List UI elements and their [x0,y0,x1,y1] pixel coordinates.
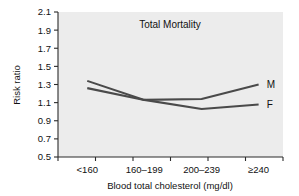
x-axis: <160160–199200–239≥240 [58,157,283,175]
x-tick-label: ≥240 [248,164,269,175]
series-label-m: M [267,79,275,90]
x-axis-tick-marks [58,157,283,161]
x-tick-label: <160 [77,164,98,175]
y-axis-tick-labels: 0.50.70.91.11.31.51.71.92.1 [38,6,51,162]
y-tick-label: 1.3 [38,79,51,90]
total-mortality-line-chart: 0.50.70.91.11.31.51.71.92.1 <160160–1992… [0,0,299,196]
x-tick-label: 160–199 [126,164,163,175]
y-tick-label: 0.9 [38,115,51,126]
y-tick-label: 1.7 [38,43,51,54]
y-tick-label: 2.1 [38,6,51,17]
y-tick-label: 1.1 [38,97,51,108]
y-axis-title: Risk ratio [11,65,22,105]
y-axis: 0.50.70.91.11.31.51.71.92.1 [38,6,58,162]
x-axis-title: Blood total cholesterol (mg/dl) [107,180,233,191]
y-tick-label: 0.7 [38,133,51,144]
chart-figure: 0.50.70.91.11.31.51.71.92.1 <160160–1992… [0,0,299,196]
x-tick-label: 200–239 [183,164,220,175]
chart-title: Total Mortality [139,19,201,30]
y-axis-tick-marks [54,12,58,157]
series-label-f: F [267,99,273,110]
y-tick-label: 1.5 [38,61,51,72]
plot-area-background [58,12,283,157]
x-axis-tick-labels: <160160–199200–239≥240 [77,164,270,175]
y-tick-label: 1.9 [38,25,51,36]
y-tick-label: 0.5 [38,151,51,162]
